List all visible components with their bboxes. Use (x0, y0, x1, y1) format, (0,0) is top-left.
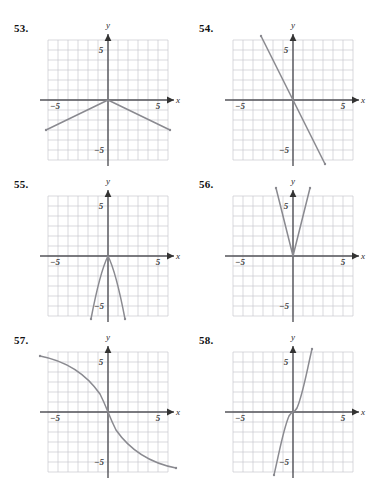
y-tick-positive: 5 (284, 45, 289, 55)
x-axis-arrowhead (352, 409, 359, 416)
y-axis-arrowhead (105, 190, 112, 197)
x-tick-positive: 5 (156, 101, 161, 111)
curve-endpoint (124, 318, 126, 320)
x-axis-arrowhead (167, 97, 174, 104)
exercise-number: 56. (199, 178, 213, 190)
curve-endpoint (260, 35, 262, 37)
coordinate-plane-58: x y 5 −5 5 −5 (223, 342, 363, 482)
curve-endpoint (39, 355, 41, 357)
x-tick-positive: 5 (341, 413, 346, 423)
x-tick-negative: −5 (50, 101, 60, 111)
curve-endpoint (175, 467, 177, 469)
exercise-number: 58. (199, 334, 213, 346)
x-axis-arrowhead (352, 97, 359, 104)
curve-endpoint (309, 187, 311, 189)
x-tick-negative: −5 (50, 413, 60, 423)
graph-svg: x y 5 −5 5 −5 (38, 342, 178, 482)
y-axis-label: y (290, 176, 295, 186)
x-axis-arrowhead (167, 409, 174, 416)
x-axis-label: x (175, 407, 180, 417)
x-axis-label: x (175, 95, 180, 105)
coordinate-plane-55: x y 5 −5 5 −5 (38, 186, 178, 326)
x-tick-negative: −5 (235, 257, 245, 267)
graph-svg: x y 5 −5 5 −5 (223, 186, 363, 326)
y-axis-label: y (105, 20, 110, 30)
y-tick-negative: −5 (279, 301, 289, 311)
curve-endpoint (45, 129, 47, 131)
y-tick-negative: −5 (279, 145, 289, 155)
curve-endpoint (324, 163, 326, 165)
y-axis-label: y (290, 20, 295, 30)
y-tick-positive: 5 (99, 45, 104, 55)
y-axis-arrowhead (290, 34, 297, 41)
coordinate-plane-54: x y 5 −5 5 −5 (223, 30, 363, 170)
worksheet-page: 53. (0, 0, 370, 483)
curve-endpoint (273, 474, 275, 476)
coordinate-plane-57: x y 5 −5 5 −5 (38, 342, 178, 482)
y-tick-negative: −5 (94, 457, 104, 467)
y-axis-label: y (290, 332, 295, 342)
curve-endpoint (90, 318, 92, 320)
y-tick-negative: −5 (94, 145, 104, 155)
exercise-number: 55. (14, 178, 28, 190)
y-tick-positive: 5 (99, 357, 104, 367)
curve-endpoint (169, 129, 171, 131)
x-tick-positive: 5 (156, 413, 161, 423)
x-axis-arrowhead (167, 253, 174, 260)
y-tick-positive: 5 (284, 201, 289, 211)
y-axis-arrowhead (105, 34, 112, 41)
x-axis-label: x (360, 251, 365, 261)
y-axis-label: y (105, 332, 110, 342)
curve-endpoint (311, 348, 313, 350)
graph-svg: x y 5 −5 5 −5 (38, 186, 178, 326)
graph-svg: x y 5 −5 5 −5 (223, 30, 363, 170)
y-axis-arrowhead (290, 190, 297, 197)
exercise-number: 54. (199, 22, 213, 34)
y-axis-arrowhead (105, 346, 112, 353)
x-axis-label: x (360, 407, 365, 417)
curve-endpoint (275, 187, 277, 189)
coordinate-plane-53: x y 5 −5 5 −5 (38, 30, 178, 170)
y-tick-negative: −5 (279, 457, 289, 467)
x-axis-label: x (360, 95, 365, 105)
y-tick-positive: 5 (99, 201, 104, 211)
exercise-number: 53. (14, 22, 28, 34)
exercise-number: 57. (14, 334, 28, 346)
x-tick-positive: 5 (341, 101, 346, 111)
y-tick-negative: −5 (94, 301, 104, 311)
graph-svg: x y 5 −5 5 −5 (223, 342, 363, 482)
x-tick-negative: −5 (235, 101, 245, 111)
x-tick-positive: 5 (341, 257, 346, 267)
y-axis-arrowhead (290, 346, 297, 353)
x-tick-negative: −5 (235, 413, 245, 423)
x-axis-label: x (175, 251, 180, 261)
y-tick-positive: 5 (284, 357, 289, 367)
x-axis-arrowhead (352, 253, 359, 260)
coordinate-plane-56: x y 5 −5 5 −5 (223, 186, 363, 326)
y-axis-label: y (105, 176, 110, 186)
x-tick-negative: −5 (50, 257, 60, 267)
x-tick-positive: 5 (156, 257, 161, 267)
graph-svg: x y 5 −5 5 −5 (38, 30, 178, 170)
